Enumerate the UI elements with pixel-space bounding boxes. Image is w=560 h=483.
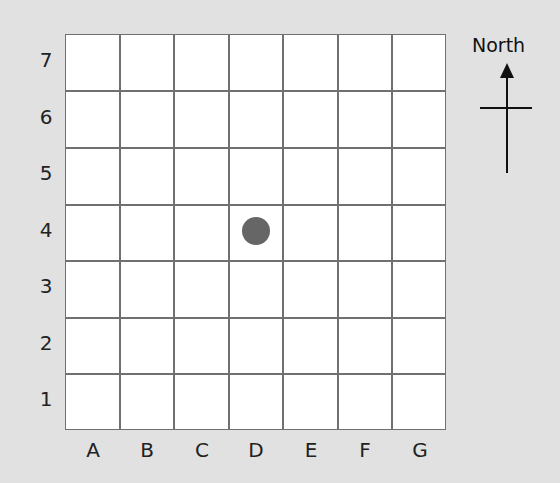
- grid-line: [337, 35, 339, 429]
- col-label-d: D: [241, 438, 271, 462]
- north-arrow-icon: [476, 58, 536, 178]
- col-label-f: F: [350, 438, 380, 462]
- col-label-g: G: [405, 438, 435, 462]
- row-label-4: 4: [36, 218, 56, 242]
- north-label: North: [472, 34, 525, 56]
- row-label-3: 3: [36, 274, 56, 298]
- row-label-5: 5: [36, 161, 56, 185]
- grid-line: [282, 35, 284, 429]
- row-label-6: 6: [36, 105, 56, 129]
- row-label-2: 2: [36, 331, 56, 355]
- col-label-a: A: [78, 438, 108, 462]
- grid-line: [66, 260, 445, 262]
- grid-line: [173, 35, 175, 429]
- row-label-7: 7: [36, 48, 56, 72]
- col-label-c: C: [187, 438, 217, 462]
- grid-line: [66, 90, 445, 92]
- grid-line: [228, 35, 230, 429]
- grid-line: [119, 35, 121, 429]
- grid-line: [66, 204, 445, 206]
- grid-line: [66, 147, 445, 149]
- grid-line: [66, 373, 445, 375]
- col-label-e: E: [296, 438, 326, 462]
- grid-line: [391, 35, 393, 429]
- grid-line: [66, 317, 445, 319]
- row-label-1: 1: [36, 387, 56, 411]
- position-marker: [242, 217, 270, 245]
- col-label-b: B: [132, 438, 162, 462]
